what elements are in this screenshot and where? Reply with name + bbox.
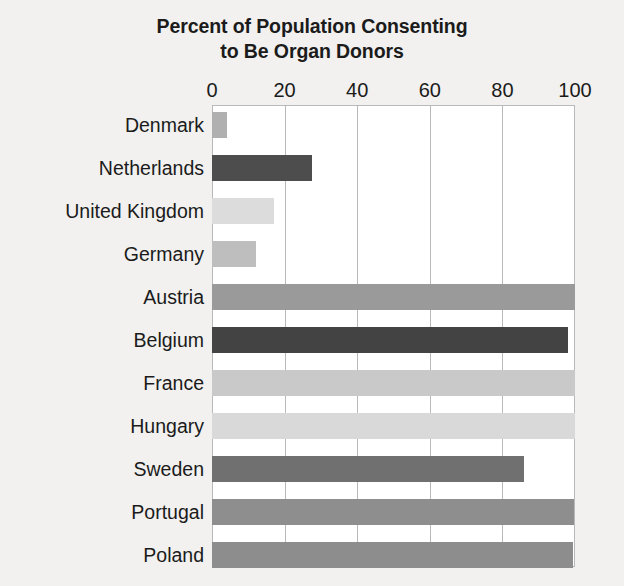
x-tick-label-80: 80 [491,78,513,102]
bar-row [212,155,575,181]
bar-germany [212,241,256,267]
bar-row [212,112,575,138]
bar-row [212,327,575,353]
category-label-united-kingdom: United Kingdom [0,198,204,224]
bar-sweden [212,456,524,482]
x-tick-label-60: 60 [419,78,441,102]
chart-title-line-1: Percent of Population Consenting [0,14,624,39]
category-label-france: France [0,370,204,396]
bar-denmark [212,112,227,138]
bar-row [212,542,575,568]
category-label-poland: Poland [0,542,204,568]
bar-portugal [212,499,574,525]
bar-belgium [212,327,568,353]
x-axis-tick-labels: 020406080100 [0,78,624,104]
bar-netherlands [212,155,312,181]
bars-layer [212,105,575,567]
bar-row [212,241,575,267]
bar-united-kingdom [212,198,274,224]
category-label-sweden: Sweden [0,456,204,482]
category-label-denmark: Denmark [0,112,204,138]
category-label-hungary: Hungary [0,413,204,439]
chart-title: Percent of Population Consenting to Be O… [0,14,624,64]
bar-france [212,370,575,396]
bar-row [212,198,575,224]
bar-row [212,456,575,482]
y-axis-category-labels: DenmarkNetherlandsUnited KingdomGermanyA… [0,105,204,567]
x-tick-label-0: 0 [206,78,217,102]
bar-row [212,284,575,310]
x-tick-label-100: 100 [558,78,591,102]
bar-hungary [212,413,575,439]
category-label-portugal: Portugal [0,499,204,525]
category-label-belgium: Belgium [0,327,204,353]
x-tick-label-40: 40 [346,78,368,102]
bar-row [212,499,575,525]
bar-row [212,413,575,439]
category-label-netherlands: Netherlands [0,155,204,181]
category-label-germany: Germany [0,241,204,267]
organ-donor-bar-chart: Percent of Population Consenting to Be O… [0,0,624,586]
category-label-austria: Austria [0,284,204,310]
bar-row [212,370,575,396]
x-tick-label-20: 20 [273,78,295,102]
bar-poland [212,542,573,568]
chart-title-line-2: to Be Organ Donors [0,39,624,64]
bar-austria [212,284,575,310]
